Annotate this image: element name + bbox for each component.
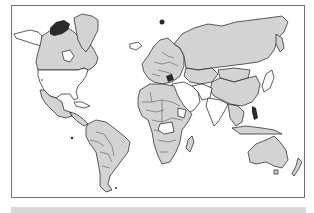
region-new-zealand — [292, 158, 302, 176]
region-south-america — [86, 120, 130, 192]
region-australia — [248, 136, 288, 168]
island-svalbard — [160, 20, 165, 25]
region-kamchatka — [276, 34, 284, 52]
region-alaska — [14, 30, 42, 46]
region-russia — [174, 16, 288, 70]
region-india — [206, 98, 228, 126]
region-indonesia — [232, 126, 282, 134]
region-cuba — [74, 102, 90, 108]
island-falklands — [115, 187, 117, 189]
region-central-america — [70, 112, 88, 126]
region-madagascar — [186, 136, 194, 152]
region-iceland — [130, 42, 142, 50]
region-tasmania — [274, 170, 278, 174]
region-southeast-asia — [228, 104, 244, 126]
map-frame — [11, 5, 305, 198]
footer-bar — [11, 207, 306, 213]
region-japan — [262, 70, 274, 92]
world-map — [12, 6, 306, 199]
island-hawaii — [41, 79, 43, 81]
island-galapagos — [71, 137, 73, 139]
region-philippines — [252, 106, 258, 120]
